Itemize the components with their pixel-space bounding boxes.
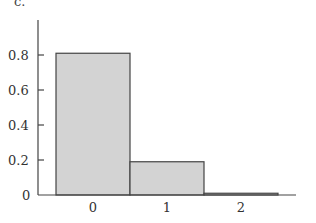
y-tick-label: 0.8: [8, 48, 29, 63]
y-tick-label: 0.4: [8, 118, 29, 133]
y-tick-label: 0: [22, 188, 30, 203]
x-tick-label: 2: [237, 200, 245, 215]
y-tick-label: 0.2: [8, 153, 29, 168]
bar-0: [56, 53, 130, 195]
bar-1: [130, 162, 204, 195]
x-tick-label: 1: [163, 200, 171, 215]
y-tick-label: 0.6: [8, 83, 29, 98]
bar-chart: 01200.20.40.60.8: [0, 0, 316, 223]
x-tick-label: 0: [89, 200, 97, 215]
